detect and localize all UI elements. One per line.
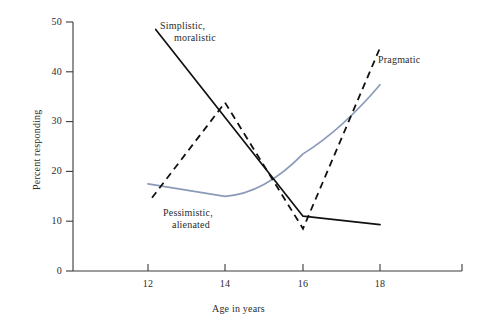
annotation-simplistic-line2: moralistic bbox=[174, 32, 216, 44]
annotation-simplistic-line1: Simplistic, bbox=[160, 20, 205, 31]
x-axis-title: Age in years bbox=[212, 303, 265, 314]
annotation-simplistic-moralistic: Simplistic, moralistic bbox=[160, 20, 216, 44]
y-tick-label-0: 0 bbox=[44, 265, 62, 276]
chart-plot-area bbox=[0, 0, 478, 329]
y-tick-label-10: 10 bbox=[44, 215, 62, 226]
series-pragmatic bbox=[152, 48, 380, 229]
annotation-pragmatic-line1: Pragmatic bbox=[378, 54, 420, 65]
y-tick-label-50: 50 bbox=[44, 16, 62, 27]
y-tick-label-40: 40 bbox=[44, 66, 62, 77]
annotation-pragmatic: Pragmatic bbox=[378, 54, 420, 66]
y-axis-ticks bbox=[66, 22, 73, 271]
series-pessimistic-alienated bbox=[148, 85, 380, 197]
x-tick-label-18: 18 bbox=[366, 278, 394, 289]
y-tick-label-20: 20 bbox=[44, 165, 62, 176]
y-tick-label-30: 30 bbox=[44, 115, 62, 126]
chart-figure: 50 40 30 20 10 0 12 14 16 18 Percent res… bbox=[0, 0, 478, 329]
y-axis-title: Percent responding bbox=[31, 109, 42, 190]
annotation-pessimistic-alienated: Pessimistic, alienated bbox=[163, 207, 213, 231]
x-tick-label-16: 16 bbox=[289, 278, 317, 289]
annotation-pessimistic-line1: Pessimistic, bbox=[163, 207, 213, 218]
x-axis-ticks bbox=[148, 264, 462, 271]
annotation-pessimistic-line2: alienated bbox=[172, 219, 213, 231]
x-tick-label-14: 14 bbox=[211, 278, 239, 289]
x-tick-label-12: 12 bbox=[134, 278, 162, 289]
